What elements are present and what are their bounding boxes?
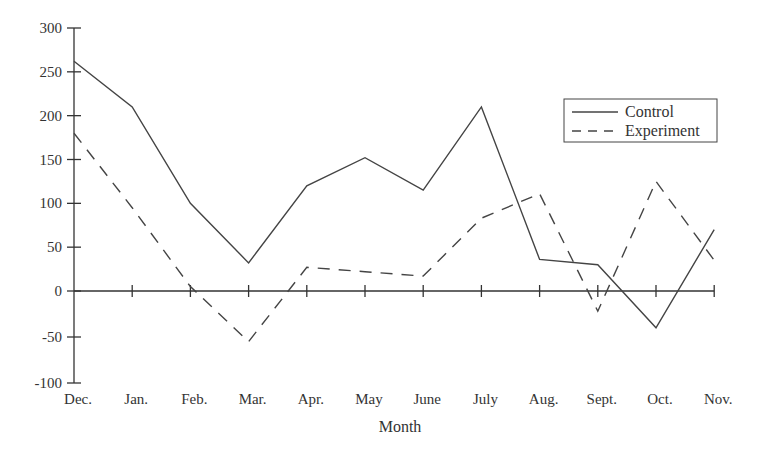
y-tick-label: 50	[47, 239, 62, 255]
series-experiment-line	[74, 133, 714, 341]
x-axis-title: Month	[379, 418, 422, 435]
y-tick-label: -100	[35, 375, 63, 391]
x-tick-label: Mar.	[239, 391, 267, 407]
y-tick-label: 150	[40, 152, 63, 168]
x-tick-label: Feb.	[181, 391, 207, 407]
x-axis: Dec.Jan.Feb.Mar.Apr.MayJuneJulyAug.Sept.…	[64, 285, 732, 407]
y-axis: 300250200150100500-50-100	[35, 20, 82, 391]
y-tick-label: 200	[40, 108, 63, 124]
line-chart: 300250200150100500-50-100 Dec.Jan.Feb.Ma…	[0, 0, 760, 455]
legend-label-experiment: Experiment	[625, 122, 700, 140]
legend: ControlExperiment	[564, 99, 717, 142]
x-tick-label: May	[355, 391, 383, 407]
x-tick-label: Aug.	[529, 391, 559, 407]
legend-label-control: Control	[625, 103, 674, 120]
y-tick-label: 250	[40, 64, 63, 80]
x-tick-label: Sept.	[587, 391, 617, 407]
x-tick-label: Apr.	[298, 391, 324, 407]
x-tick-label: July	[473, 391, 499, 407]
x-tick-label: Jan.	[124, 391, 148, 407]
y-tick-label: 100	[40, 195, 63, 211]
x-tick-label: June	[413, 391, 441, 407]
y-tick-label: -50	[42, 329, 62, 345]
x-tick-label: Oct.	[647, 391, 672, 407]
x-tick-label: Nov.	[704, 391, 733, 407]
y-tick-label: 0	[55, 283, 63, 299]
y-tick-label: 300	[40, 20, 63, 36]
x-tick-label: Dec.	[64, 391, 92, 407]
